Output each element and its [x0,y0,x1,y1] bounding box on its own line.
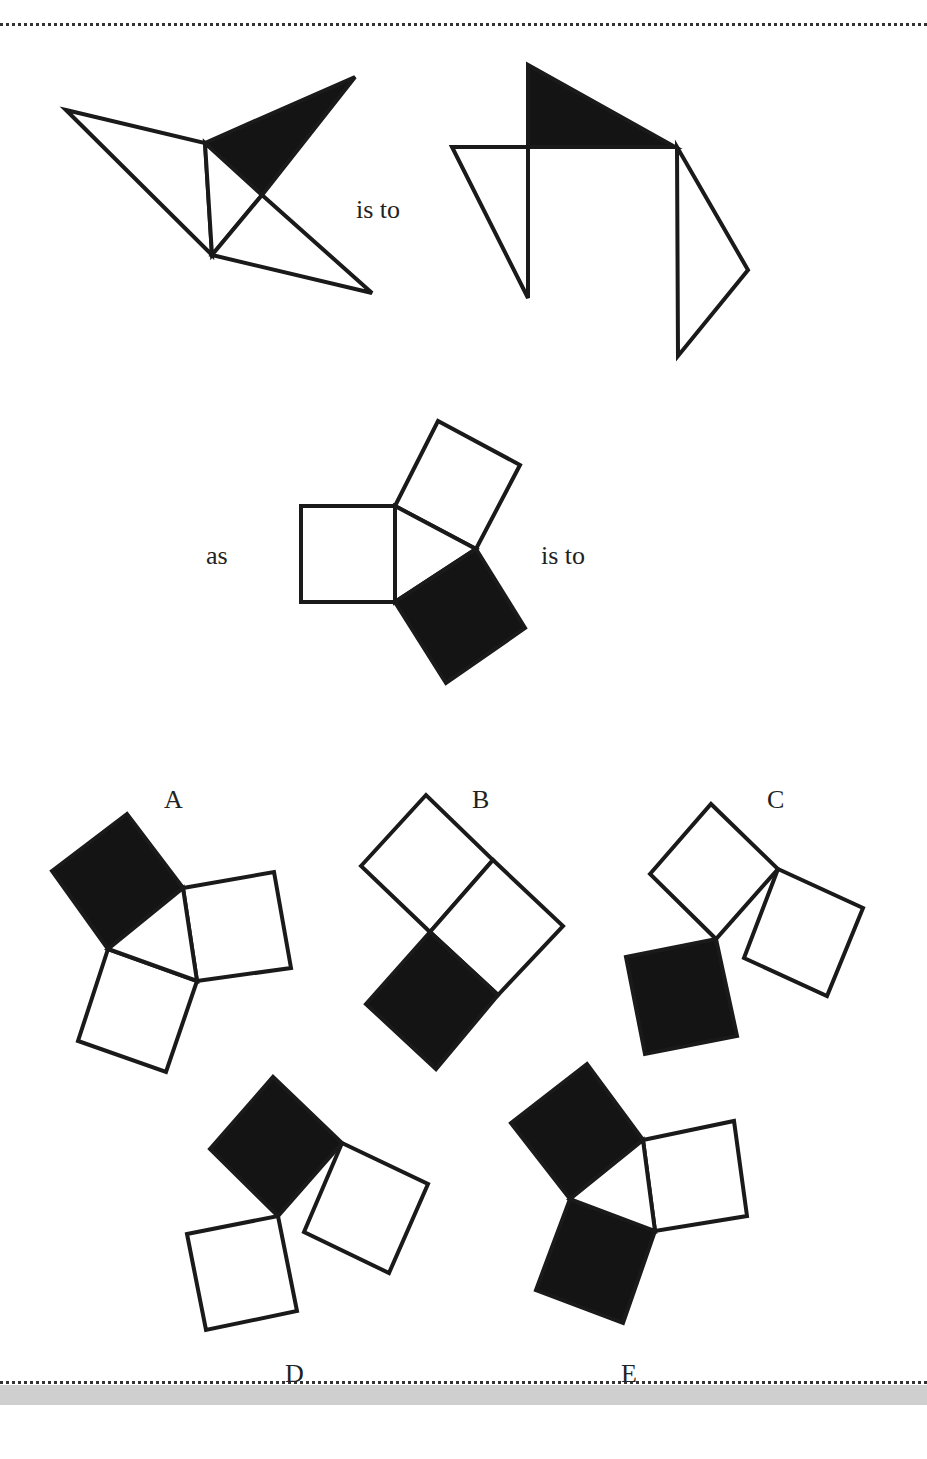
option-a-label[interactable]: A [164,787,183,813]
option-b-figure[interactable] [361,795,563,1069]
option-b-label[interactable]: B [472,787,489,813]
option-e-label[interactable]: E [621,1361,637,1387]
shaded-shape [626,939,737,1054]
figure-2-source [301,421,525,683]
option-c-figure[interactable] [626,804,863,1054]
as-label: as [206,543,228,569]
option-d-figure[interactable] [187,1077,428,1330]
option-d-label[interactable]: D [285,1361,304,1387]
option-a-figure[interactable] [52,814,291,1072]
figure-1-target [452,65,748,356]
option-e-figure[interactable] [511,1064,747,1323]
outline-shape [301,506,395,602]
outline-shape [66,110,212,255]
puzzle-canvas [0,0,927,1459]
outline-shape [677,147,748,356]
figure-1-source [66,77,372,293]
is-to-label-2: is to [541,543,585,569]
is-to-label-1: is to [356,197,400,223]
outline-shape [643,1121,747,1231]
outline-shape [183,872,291,981]
shaded-shape [528,65,675,147]
outline-shape [452,147,528,298]
option-c-label[interactable]: C [767,787,784,813]
outline-shape [187,1216,297,1330]
